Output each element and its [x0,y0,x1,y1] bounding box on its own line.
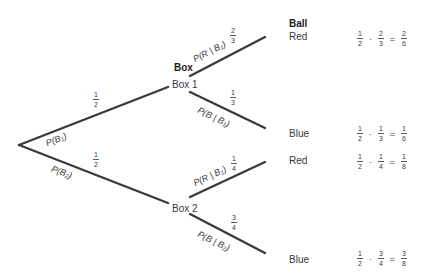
node-box2-blue: Blue [289,255,309,265]
node-box2-red: Red [289,156,307,166]
product-box2-red: 12 · 14 = 18 [357,153,407,170]
product-box1-red: 12 · 23 = 26 [357,30,407,47]
node-box1-red: Red [289,32,307,42]
edge-prob-root-box2: 12 [93,151,99,168]
edge-prob-root-box1: 12 [93,91,99,108]
header-ball: Ball [289,19,307,29]
node-box1-blue: Blue [289,129,309,139]
edge-prob-box2-blue: 34 [231,214,237,231]
node-box2: Box 2 [172,204,198,214]
edge-prob-box1-blue: 13 [230,89,236,106]
product-box1-blue: 12 · 13 = 16 [357,125,407,142]
product-box2-blue: 12 · 34 = 38 [357,250,407,267]
header-box: Box [174,63,193,73]
edge-prob-box1-red: 23 [230,27,236,44]
edge-prob-box2-red: 14 [231,155,237,172]
node-box1: Box 1 [172,80,198,90]
